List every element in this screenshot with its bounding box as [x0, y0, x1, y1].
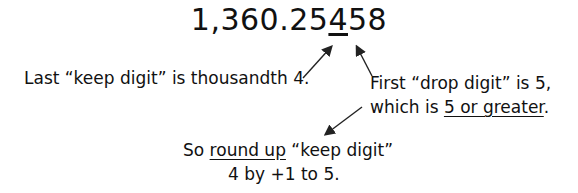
- arrow-to-round-up-icon: [326, 107, 362, 134]
- arrows: [0, 0, 578, 193]
- arrow-to-keep-digit-icon: [303, 47, 331, 78]
- arrow-to-drop-digit-icon: [357, 47, 372, 76]
